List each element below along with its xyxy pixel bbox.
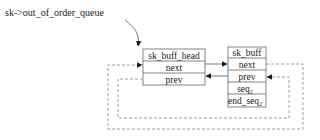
buff-next-loop-arrow — [108, 64, 303, 129]
diagram-canvas: sk->out_of_order_queue sk_buff_head next… — [0, 0, 320, 140]
queue-pointer-arrow — [125, 20, 138, 46]
head-row-title: sk_buff_head — [148, 51, 200, 61]
sk-buff-box: sk_buff next prev seq2 end_seq2 — [228, 47, 266, 107]
buff-row-prev: prev — [239, 72, 256, 82]
buff-row-title: sk_buff — [233, 48, 263, 58]
queue-label: sk->out_of_order_queue — [5, 7, 105, 18]
sk-buff-head-box: sk_buff_head next prev — [143, 49, 205, 85]
head-row-next: next — [166, 63, 183, 73]
buff-row-next: next — [239, 60, 256, 70]
head-row-prev: prev — [166, 75, 183, 85]
buff-row-end-seq: end_seq2 — [228, 96, 262, 107]
